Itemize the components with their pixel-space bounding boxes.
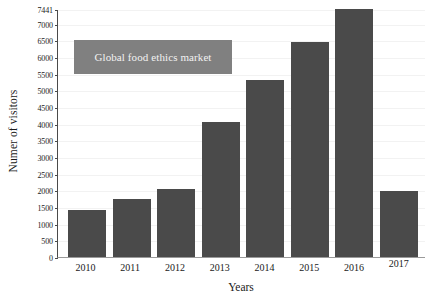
y-axis-tick-mark [55, 108, 59, 109]
y-axis-title: Numer of visitors [2, 0, 24, 262]
x-axis-tick-label: 2017 [376, 258, 421, 274]
bar-chart: Numer of visitors 0500100015002000250030… [0, 0, 440, 304]
y-axis-tick-label: 6500 [37, 37, 53, 46]
y-axis-tick-label: 2000 [37, 187, 53, 196]
bar-slot [288, 10, 333, 257]
y-axis-tick-mark [55, 191, 59, 192]
bar-2017[interactable] [380, 191, 418, 257]
legend-box: Global food ethics market [74, 40, 232, 74]
bar-2016[interactable] [335, 9, 373, 257]
y-axis-tick-mark [55, 10, 59, 11]
x-axis-tick-label: 2016 [332, 262, 377, 278]
y-axis-tick-mark [55, 258, 59, 259]
y-axis-tick-label: 7000 [37, 20, 53, 29]
bar-2015[interactable] [291, 42, 329, 257]
y-axis-tick-mark [55, 241, 59, 242]
y-axis-tick-mark [55, 58, 59, 59]
bar-2014[interactable] [246, 80, 284, 257]
y-axis-tick-label: 5500 [37, 70, 53, 79]
y-axis-tick-mark [55, 141, 59, 142]
bar-slot [377, 10, 422, 257]
y-axis-tick-label: 3500 [37, 137, 53, 146]
y-axis-tick-mark [55, 158, 59, 159]
y-axis-tick-label: 1000 [37, 220, 53, 229]
y-axis-tick-mark [55, 75, 59, 76]
y-axis-tick-mark [55, 208, 59, 209]
x-axis-tick-label: 2011 [108, 262, 153, 278]
y-axis-tick-label: 4500 [37, 104, 53, 113]
y-axis-tick-label: 1500 [37, 204, 53, 213]
bar-2012[interactable] [157, 189, 195, 257]
bar-slot [243, 10, 288, 257]
y-axis-tick-mark [55, 125, 59, 126]
y-axis-tick-label: 2500 [37, 170, 53, 179]
x-axis-tick-label: 2010 [63, 262, 108, 278]
x-axis-tick-label: 2013 [197, 262, 242, 278]
x-axis-tick-label: 2012 [153, 262, 198, 278]
y-axis-tick-label: 500 [41, 237, 53, 246]
legend-label: Global food ethics market [94, 51, 211, 63]
y-axis-title-label: Numer of visitors [7, 90, 19, 173]
y-axis-tick-mark [55, 41, 59, 42]
x-axis-title: Years [57, 281, 425, 293]
y-axis-tick-label: 4000 [37, 120, 53, 129]
y-axis-tick-label: 7441 [37, 6, 53, 15]
y-axis-tick-mark [55, 25, 59, 26]
x-axis-tick-label: 2015 [287, 262, 332, 278]
bar-2011[interactable] [113, 199, 151, 257]
y-axis-tick-mark [55, 175, 59, 176]
y-axis-tick-label: 5000 [37, 87, 53, 96]
bar-2013[interactable] [202, 122, 240, 257]
x-axis-tick-labels: 20102011201220132014201520162017 [57, 262, 425, 278]
y-axis-tick-mark [55, 91, 59, 92]
bar-2010[interactable] [68, 210, 106, 257]
y-axis-tick-label: 6000 [37, 54, 53, 63]
y-axis-tick-mark [55, 225, 59, 226]
y-axis-tick-label: 3000 [37, 154, 53, 163]
x-axis-tick-label: 2014 [242, 262, 287, 278]
bar-slot [332, 10, 377, 257]
y-axis-tick-labels: 0500100015002000250030003500400045005000… [22, 10, 56, 258]
y-axis-tick-label: 0 [49, 254, 53, 263]
